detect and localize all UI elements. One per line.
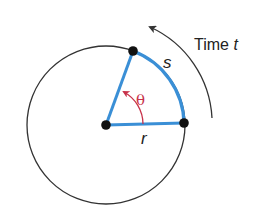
time-label-variable: t bbox=[233, 36, 238, 53]
time-label: Time t bbox=[194, 36, 238, 53]
center-point bbox=[101, 120, 111, 130]
angle-label-theta: θ bbox=[136, 91, 145, 109]
radius-end-point bbox=[179, 118, 189, 128]
arc-end-point bbox=[128, 46, 138, 56]
radius-segment bbox=[106, 123, 184, 125]
arc-label-s: s bbox=[163, 53, 172, 72]
diagram-canvas: s r θ Time t bbox=[0, 0, 258, 220]
second-radius-segment bbox=[106, 51, 133, 125]
time-label-word: Time bbox=[194, 36, 233, 53]
circle-diagram: s r θ Time t bbox=[0, 0, 258, 220]
radius-label-r: r bbox=[141, 129, 148, 148]
